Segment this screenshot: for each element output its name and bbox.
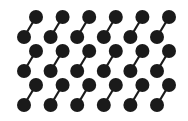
dumbbell-molecule [97, 10, 123, 44]
dumbbell-molecule [70, 78, 96, 112]
dumbbell-molecule [44, 44, 70, 78]
lower-atom-dot [17, 30, 31, 44]
lower-atom-dot [44, 64, 58, 78]
upper-atom-dot [135, 10, 149, 24]
lower-atom-dot [150, 64, 164, 78]
dumbbell-molecule [97, 44, 123, 78]
dumbbell-molecule [17, 10, 43, 44]
upper-atom-dot [109, 44, 123, 58]
dumbbell-molecule [70, 44, 96, 78]
dumbbell-lattice-diagram [0, 0, 188, 121]
lower-atom-dot [97, 64, 111, 78]
lower-atom-dot [150, 98, 164, 112]
upper-atom-dot [162, 44, 176, 58]
upper-atom-dot [29, 44, 43, 58]
dumbbell-molecule [17, 78, 43, 112]
lower-atom-dot [97, 30, 111, 44]
dumbbell-molecule [123, 10, 149, 44]
upper-atom-dot [56, 78, 70, 92]
upper-atom-dot [56, 10, 70, 24]
lower-atom-dot [123, 98, 137, 112]
lower-atom-dot [123, 64, 137, 78]
upper-atom-dot [109, 10, 123, 24]
lower-atom-dot [97, 98, 111, 112]
upper-atom-dot [162, 78, 176, 92]
dumbbell-molecule [97, 78, 123, 112]
upper-atom-dot [162, 10, 176, 24]
upper-atom-dot [82, 10, 96, 24]
upper-atom-dot [135, 44, 149, 58]
lower-atom-dot [70, 98, 84, 112]
lower-atom-dot [70, 30, 84, 44]
upper-atom-dot [109, 78, 123, 92]
dumbbell-molecule [44, 78, 70, 112]
dumbbell-molecule [17, 44, 43, 78]
upper-atom-dot [82, 44, 96, 58]
lower-atom-dot [150, 30, 164, 44]
lower-atom-dot [44, 98, 58, 112]
upper-atom-dot [56, 44, 70, 58]
upper-atom-dot [29, 10, 43, 24]
dumbbell-molecule [123, 78, 149, 112]
dumbbell-molecule [44, 10, 70, 44]
dumbbell-molecule [150, 44, 176, 78]
upper-atom-dot [29, 78, 43, 92]
lower-atom-dot [44, 30, 58, 44]
lower-atom-dot [17, 64, 31, 78]
dumbbell-molecule [150, 78, 176, 112]
lower-atom-dot [17, 98, 31, 112]
lower-atom-dot [123, 30, 137, 44]
lower-atom-dot [70, 64, 84, 78]
dumbbell-molecule [123, 44, 149, 78]
upper-atom-dot [82, 78, 96, 92]
dumbbell-molecule [70, 10, 96, 44]
upper-atom-dot [135, 78, 149, 92]
dumbbell-molecule [150, 10, 176, 44]
